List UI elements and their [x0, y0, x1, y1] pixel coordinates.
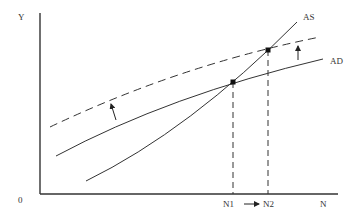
as-ad-diagram: Y 0 N AS AD N1 N2 [0, 0, 359, 218]
origin-label: 0 [18, 195, 23, 205]
as-curve [86, 22, 297, 181]
equilibrium-point-2 [266, 48, 271, 53]
ad-label: AD [330, 56, 343, 66]
n1-label: N1 [223, 199, 234, 209]
shift-arrow-icon-left [111, 104, 116, 120]
equilibrium-point-1 [231, 80, 236, 85]
ad-shifted-dashed-curve [50, 37, 320, 127]
n2-label: N2 [263, 199, 274, 209]
ad-curve [56, 59, 323, 156]
y-axis-label: Y [18, 12, 25, 22]
x-axis-label: N [320, 199, 327, 209]
as-label: AS [303, 12, 315, 22]
